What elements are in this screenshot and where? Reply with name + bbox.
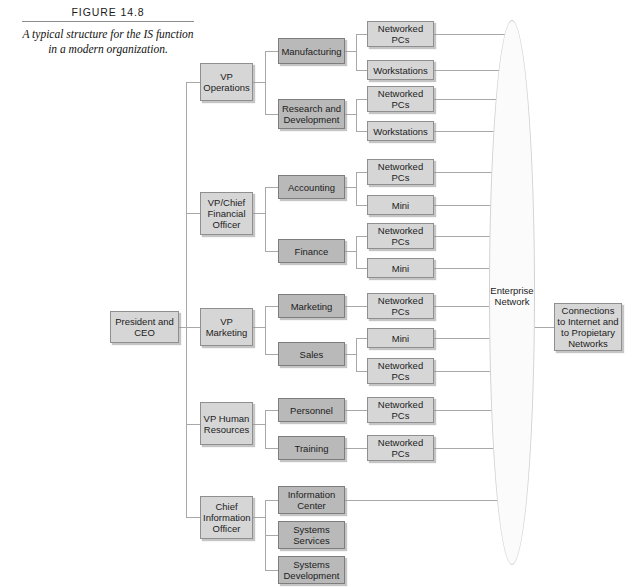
node-rnd-workstations[interactable]: Workstations (367, 121, 434, 141)
connector-accounting-pcs (356, 172, 367, 173)
connector-vpmkt-bus (265, 306, 266, 354)
node-accounting-mini[interactable]: Mini (367, 195, 434, 215)
connector-vpmkt-sales (265, 354, 278, 355)
node-vp-operations[interactable]: VP Operations (200, 63, 253, 101)
figure-canvas: FIGURE 14.8 A typical structure for the … (0, 0, 637, 587)
node-external-connections[interactable]: Connections to Internet and to Propietar… (554, 303, 622, 351)
node-personnel-networked-pcs[interactable]: Networked PCs (367, 397, 434, 423)
connector-vpops-rnd (265, 114, 278, 115)
connector-cfo-accounting (265, 187, 278, 188)
connector-sales-pcs (356, 371, 367, 372)
connector-cio-information-center (265, 500, 278, 501)
connector-sales-bus (356, 338, 357, 371)
enterprise-network-label: Enterprise Network (481, 285, 543, 307)
connector-sales-out (345, 354, 356, 355)
connector-cio-systems-development (265, 570, 278, 571)
node-sales-networked-pcs[interactable]: Networked PCs (367, 358, 434, 384)
connector-finance-mini (356, 268, 367, 269)
node-training[interactable]: Training (278, 436, 345, 460)
node-finance-networked-pcs[interactable]: Networked PCs (367, 223, 434, 249)
connector-rnd-pcs (356, 99, 367, 100)
node-president-and-ceo[interactable]: President and CEO (110, 311, 179, 343)
connector-main-trunk (186, 82, 187, 517)
caption-divider (22, 21, 194, 22)
connector-rnd-out (345, 114, 356, 115)
connector-manufacturing-out (345, 51, 356, 52)
connector-vphr-personnel (265, 410, 278, 411)
connector-personnel-pcs (345, 410, 367, 411)
connector-accounting-mini (356, 205, 367, 206)
connector-vpops-manufacturing (265, 51, 278, 52)
node-finance-mini[interactable]: Mini (367, 258, 434, 278)
connector-trunk-vp-cfo (186, 213, 200, 214)
connector-rnd-bus (356, 99, 357, 131)
connector-cio-out (253, 517, 265, 518)
node-vp-human-resources[interactable]: VP Human Resources (200, 402, 253, 445)
connector-vpops-bus (265, 51, 266, 114)
node-systems-services[interactable]: Systems Services (278, 521, 345, 549)
connector-vphr-out (253, 424, 265, 425)
node-marketing-networked-pcs[interactable]: Networked PCs (367, 293, 434, 319)
connector-sales-mini (356, 338, 367, 339)
node-accounting-networked-pcs[interactable]: Networked PCs (367, 159, 434, 185)
connector-accounting-bus (356, 172, 357, 205)
connector-network-mfg-pcs (434, 34, 509, 35)
connector-manufacturing-workstations (356, 70, 367, 71)
connector-cio-systems-services (265, 535, 278, 536)
node-vp-marketing[interactable]: VP Marketing (200, 308, 253, 346)
node-training-networked-pcs[interactable]: Networked PCs (367, 435, 434, 461)
connector-cfo-finance (265, 251, 278, 252)
connector-vpmkt-marketing (265, 306, 278, 307)
node-personnel[interactable]: Personnel (278, 398, 345, 422)
node-systems-development[interactable]: Systems Development (278, 556, 345, 584)
connector-finance-pcs (356, 236, 367, 237)
node-sales-mini[interactable]: Mini (367, 328, 434, 348)
connector-manufacturing-bus (356, 34, 357, 70)
node-research-and-development[interactable]: Research and Development (278, 99, 345, 129)
node-sales[interactable]: Sales (278, 342, 345, 366)
connector-trunk-vp-marketing (186, 327, 200, 328)
connector-network-information-center (345, 500, 509, 501)
node-rnd-networked-pcs[interactable]: Networked PCs (367, 86, 434, 112)
node-chief-information-officer[interactable]: Chief Information Officer (200, 496, 253, 539)
figure-description: A typical structure for the IS function … (22, 27, 194, 56)
node-marketing[interactable]: Marketing (278, 294, 345, 318)
node-information-center[interactable]: Information Center (278, 486, 345, 514)
connector-training-pcs (345, 448, 367, 449)
node-manufacturing-workstations[interactable]: Workstations (367, 60, 434, 80)
connector-manufacturing-pcs (356, 34, 367, 35)
connector-vpops-out (253, 82, 265, 83)
connector-finance-out (345, 251, 356, 252)
figure-number: FIGURE 14.8 (22, 6, 194, 21)
node-accounting[interactable]: Accounting (278, 175, 345, 199)
connector-cfo-out (253, 213, 265, 214)
connector-accounting-out (345, 187, 356, 188)
connector-finance-bus (356, 236, 357, 268)
connector-vphr-bus (265, 410, 266, 448)
connector-rnd-workstations (356, 131, 367, 132)
connector-cfo-bus (265, 187, 266, 251)
node-manufacturing-networked-pcs[interactable]: Networked PCs (367, 21, 434, 47)
connector-vphr-training (265, 448, 278, 449)
node-vp-chief-financial-officer[interactable]: VP/Chief Financial Officer (200, 192, 253, 235)
node-manufacturing[interactable]: Manufacturing (278, 38, 345, 64)
connector-trunk-cio (186, 517, 200, 518)
figure-caption: FIGURE 14.8 A typical structure for the … (22, 6, 194, 56)
connector-marketing-pcs (345, 306, 367, 307)
connector-trunk-vp-operations (186, 82, 200, 83)
connector-vpmkt-out (253, 327, 265, 328)
node-finance[interactable]: Finance (278, 239, 345, 263)
connector-trunk-vp-hr (186, 424, 200, 425)
